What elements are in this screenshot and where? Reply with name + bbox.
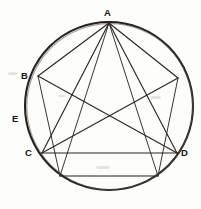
paper-speck [58, 95, 66, 97]
segment-a-c [42, 23, 109, 153]
paper-speck [150, 96, 161, 99]
label-point-e: E [12, 114, 19, 124]
label-point-b: B [21, 71, 28, 81]
segment-b-d [38, 76, 177, 153]
geometry-figure: A B E C D [0, 0, 201, 209]
paper-speck [96, 166, 110, 169]
label-point-a: A [104, 8, 111, 18]
segment-right-vertex-lower-right [158, 78, 178, 176]
label-point-c: C [25, 148, 32, 158]
geometry-svg [0, 0, 201, 209]
paper-speck [8, 72, 17, 75]
segment-b-lower-left [38, 76, 60, 176]
label-point-d: D [181, 148, 188, 158]
